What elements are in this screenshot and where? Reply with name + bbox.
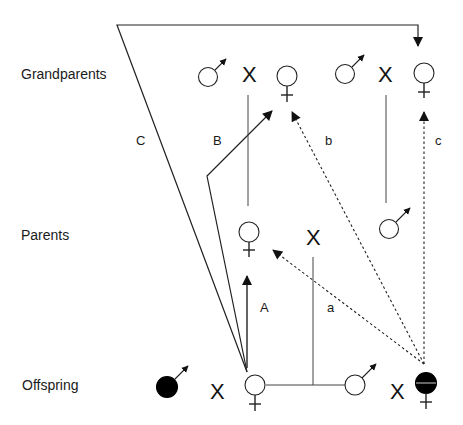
offspring-female-carrier-symbol [416,373,437,410]
offspring-female-symbol [245,375,265,411]
path-label-A: A [260,300,269,315]
grandfather-1-male-symbol [199,59,227,87]
row-label-offspring: Offspring [22,377,79,393]
path-label-b: b [325,133,332,148]
offspring-male-affected-symbol [157,366,189,398]
path-label-c: c [435,133,442,148]
cross-parents: X [306,225,321,251]
cross-offspring-2: X [390,379,405,405]
row-label-grandparents: Grandparents [21,66,107,82]
cross-grandparents-1: X [242,62,257,88]
path-B [207,111,272,372]
grandfather-2-male-symbol [336,55,365,84]
grandmother-2-female-symbol [414,63,434,98]
cross-offspring-1: X [210,379,225,405]
path-a [273,250,424,364]
path-label-C: C [136,133,145,148]
path-C [117,25,418,372]
path-label-B: B [213,133,222,148]
pedigree-diagram [0,0,463,425]
path-label-a: a [327,300,334,315]
row-label-parents: Parents [21,227,69,243]
mother-female-symbol [239,222,259,257]
father-male-symbol [380,208,411,239]
cross-grandparents-2: X [378,62,393,88]
grandmother-1-female-symbol [277,66,297,102]
offspring-male-symbol [345,364,376,395]
